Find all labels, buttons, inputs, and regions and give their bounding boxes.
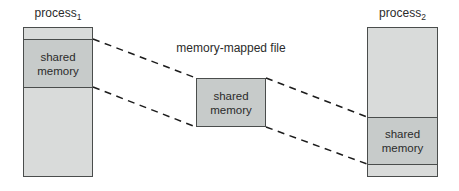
diagram-canvas: process1 shared memory memory-mapped fil… xyxy=(0,0,459,191)
process1-shared-region: shared memory xyxy=(24,40,92,88)
process2-title-base: process xyxy=(379,6,421,20)
process1-shared-label: shared memory xyxy=(24,50,92,78)
mapped-file-shared-label: shared memory xyxy=(197,89,265,117)
process1-address-space: shared memory xyxy=(23,27,93,177)
process2-shared-region: shared memory xyxy=(368,118,437,165)
process2-title-sub: 2 xyxy=(421,12,426,22)
process2-address-space: shared memory xyxy=(367,27,438,177)
process1-title-base: process xyxy=(35,6,77,20)
process2-title: process2 xyxy=(367,7,438,20)
connector-line-p1-bottom xyxy=(93,87,196,127)
process1-title: process1 xyxy=(23,7,93,20)
process2-top-region xyxy=(368,28,437,118)
process1-title-sub: 1 xyxy=(77,12,82,22)
mapped-file-title: memory-mapped file xyxy=(171,42,291,55)
connector-line-p2-bottom xyxy=(266,127,367,164)
process2-bottom-region xyxy=(368,165,437,176)
connector-line-p2-top xyxy=(266,78,367,117)
process2-shared-label: shared memory xyxy=(368,127,437,155)
process1-top-region xyxy=(24,28,92,40)
process1-bottom-region xyxy=(24,88,92,176)
mapped-file-box: shared memory xyxy=(196,78,266,127)
